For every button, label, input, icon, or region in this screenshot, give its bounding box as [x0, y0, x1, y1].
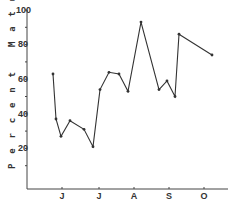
data-point — [158, 88, 161, 91]
data-point — [211, 54, 214, 57]
data-point — [69, 119, 72, 122]
data-line — [53, 22, 212, 147]
data-point — [140, 21, 143, 24]
data-point — [118, 73, 121, 76]
x-tick-label: J — [94, 191, 104, 201]
data-point — [99, 88, 102, 91]
data-point — [127, 90, 130, 93]
plot-area — [0, 0, 239, 207]
data-point — [83, 128, 86, 131]
x-tick-label: J — [57, 191, 67, 201]
line-chart: P e r c e n t M a t u r e F e m a l e s … — [0, 0, 239, 207]
data-point — [60, 135, 63, 138]
x-tick-label: S — [164, 191, 174, 201]
data-point — [92, 145, 95, 148]
data-point — [178, 33, 181, 36]
data-point — [174, 95, 177, 98]
data-point — [166, 80, 169, 83]
y-tick-label: 80 — [16, 39, 28, 49]
x-tick-label: A — [129, 191, 139, 201]
data-point — [52, 73, 55, 76]
y-tick-label: 100 — [16, 5, 28, 15]
y-tick-label: 60 — [16, 74, 28, 84]
y-tick-label: 20 — [16, 143, 28, 153]
data-point — [108, 71, 111, 74]
x-tick-label: O — [199, 191, 209, 201]
y-tick-label: 40 — [16, 109, 28, 119]
data-point — [55, 118, 58, 121]
